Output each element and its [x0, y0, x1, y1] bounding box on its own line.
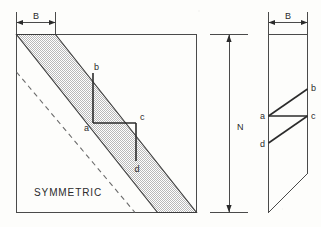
segment-d-c-right	[269, 116, 308, 143]
point-label-a-left: a	[84, 123, 89, 133]
figure-container: B b a c d SYMMETRIC N B b a c d	[0, 0, 321, 227]
point-label-c-right: c	[311, 111, 316, 121]
arrow-right-icon	[49, 20, 56, 25]
arrow-right-icon-2	[301, 20, 308, 25]
left-panel-group	[17, 12, 197, 213]
symmetric-caption: SYMMETRIC	[34, 187, 102, 198]
arrow-down-icon	[226, 205, 231, 213]
right-panel-group	[269, 12, 308, 213]
element-stencil-right	[269, 89, 308, 143]
bandwidth-label-right: B	[285, 11, 291, 21]
point-label-a-right: a	[260, 111, 265, 121]
point-label-b-right: b	[311, 83, 316, 93]
order-label: N	[237, 122, 244, 132]
arrow-left-icon	[17, 20, 24, 25]
segment-a-b-right	[269, 89, 308, 116]
point-label-c-left: c	[140, 112, 145, 122]
figure-canvas: B b a c d SYMMETRIC N B b a c d	[0, 0, 321, 227]
point-label-d-right: d	[260, 139, 265, 149]
storage-array-outline	[269, 35, 308, 213]
arrow-left-icon-2	[269, 20, 276, 25]
arrow-up-icon	[226, 35, 231, 43]
point-label-d-left: d	[134, 164, 139, 174]
bandwidth-label-left: B	[33, 11, 39, 21]
point-label-b-left: b	[94, 62, 99, 72]
